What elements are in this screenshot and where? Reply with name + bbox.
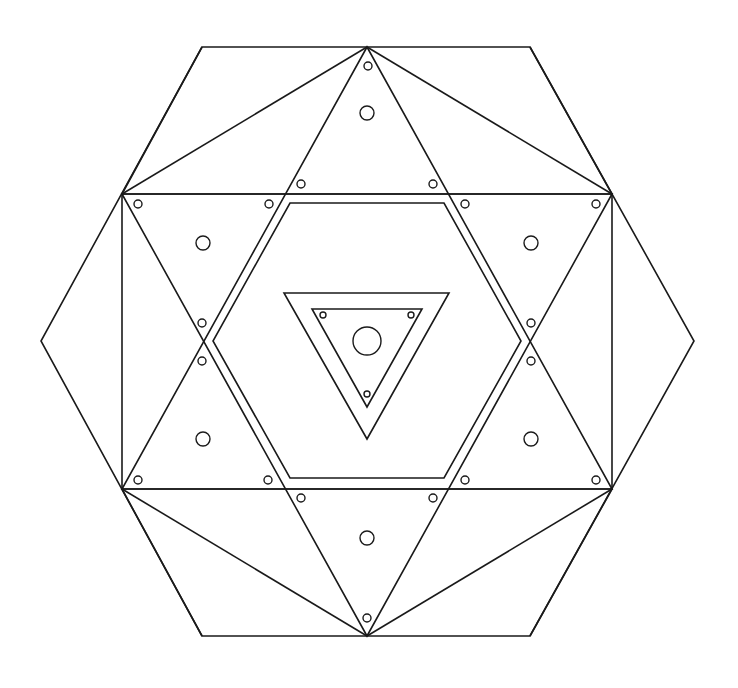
center-triangle-outer	[284, 293, 449, 439]
small-circle	[264, 476, 272, 484]
small-circle	[429, 494, 437, 502]
small-circle	[198, 357, 206, 365]
small-circle	[297, 494, 305, 502]
small-circle	[461, 200, 469, 208]
large-circle	[196, 236, 210, 250]
large-circle	[360, 106, 374, 120]
down-triangle	[122, 194, 612, 636]
large-circles	[196, 106, 538, 545]
outer-hexagon	[41, 47, 694, 636]
small-circle	[592, 200, 600, 208]
small-circle	[429, 180, 437, 188]
connector-lines	[122, 47, 612, 636]
connector-line	[367, 47, 612, 194]
connector-line	[122, 489, 367, 636]
connector-line	[530, 47, 612, 194]
small-circle	[527, 357, 535, 365]
connector-line	[367, 489, 612, 636]
connector-line	[122, 489, 202, 636]
rectangle	[122, 194, 612, 489]
up-triangle	[122, 47, 612, 489]
small-circle	[364, 391, 370, 397]
connector-line	[122, 47, 367, 194]
inner-hexagon	[213, 203, 521, 478]
small-circle	[527, 319, 535, 327]
large-circle	[360, 531, 374, 545]
large-circle	[353, 327, 381, 355]
center-triangle-inner	[312, 309, 422, 407]
small-circle	[265, 200, 273, 208]
large-circle	[524, 236, 538, 250]
connector-line	[530, 489, 612, 636]
small-circle	[134, 476, 142, 484]
small-circle	[320, 312, 326, 318]
geometric-diagram	[0, 0, 738, 688]
small-circle	[461, 476, 469, 484]
connector-line	[122, 47, 202, 194]
small-circle	[363, 614, 371, 622]
small-circle	[134, 200, 142, 208]
small-circle	[198, 319, 206, 327]
small-circle	[592, 476, 600, 484]
small-circle	[364, 62, 372, 70]
small-circle	[297, 180, 305, 188]
small-circle	[408, 312, 414, 318]
large-circle	[524, 432, 538, 446]
large-circle	[196, 432, 210, 446]
